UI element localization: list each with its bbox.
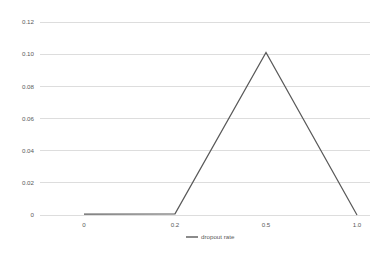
y-axis-tick-label: 0.04 — [22, 147, 35, 154]
y-axis-tick-label: 0.06 — [22, 115, 35, 122]
legend-label-dropout-rate: dropout rate — [201, 233, 235, 240]
x-axis-tick-label: 0 — [82, 221, 86, 228]
line-chart: 00.020.040.060.080.100.12 00.20.51.0 dro… — [0, 0, 383, 256]
y-axis-tick-label: 0.12 — [22, 18, 35, 25]
y-axis-tick-label: 0.08 — [22, 83, 35, 90]
chart-background — [0, 0, 383, 256]
x-axis-tick-label: 0.5 — [262, 221, 271, 228]
chart-container: 00.020.040.060.080.100.12 00.20.51.0 dro… — [0, 0, 383, 256]
y-axis-tick-label: 0.10 — [22, 50, 35, 57]
x-axis-tick-label: 1.0 — [353, 221, 362, 228]
y-axis-tick-label: 0.02 — [22, 179, 35, 186]
x-axis-tick-label: 0.2 — [171, 221, 180, 228]
y-axis-tick-label: 0 — [31, 211, 35, 218]
